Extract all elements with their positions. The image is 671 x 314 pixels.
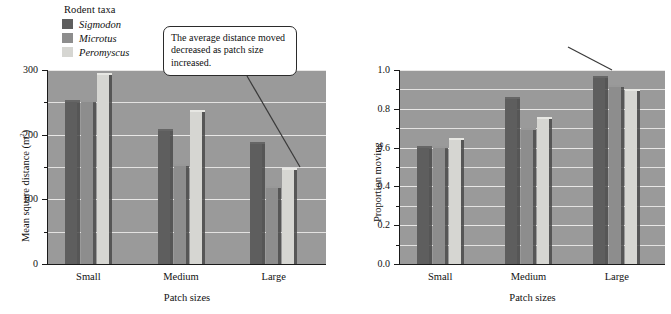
- chart-panel-left: Rodent taxa Sigmodon Microtus Peromyscus…: [0, 0, 340, 314]
- leader-line-segment: [247, 76, 300, 167]
- leader-line-segment: [568, 47, 612, 70]
- callout-left: The average distance moved decreased as …: [163, 26, 297, 76]
- chart-panel-right: 0.00.20.40.60.81.0SmallMediumLarge Propo…: [340, 0, 671, 314]
- callout-leader-line-right: [340, 0, 671, 314]
